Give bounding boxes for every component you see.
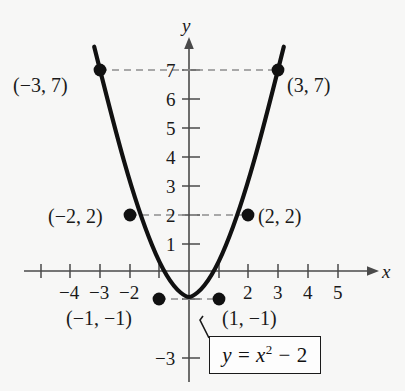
point-label-3-7: (3, 7): [287, 75, 330, 95]
point-label-neg1-neg1: (−1, −1): [66, 308, 132, 328]
point-label-2-2: (2, 2): [258, 206, 301, 226]
x-axis-label: x: [382, 262, 390, 281]
point-neg3-7: [94, 64, 107, 77]
point-1-neg1: [213, 293, 226, 306]
x-tick-label-5: 5: [333, 283, 343, 302]
x-tick-label-2: 2: [243, 283, 253, 302]
equation-exponent: 2: [266, 342, 273, 357]
y-tick-label-5: 5: [166, 119, 176, 138]
cartesian-plot-svg: [0, 0, 405, 391]
equation-equals: =: [238, 343, 250, 367]
point-neg2-2: [124, 209, 137, 222]
equation-leader-line: [200, 316, 209, 338]
point-3-7: [272, 64, 285, 77]
y-tick-label-1: 1: [166, 235, 176, 254]
x-tick-label-neg3: −3: [89, 283, 109, 302]
x-axis-arrowhead: [367, 266, 379, 276]
x-tick-label-3: 3: [273, 283, 283, 302]
leader-path: [200, 316, 209, 338]
y-tick-label-neg3: −3: [155, 349, 175, 368]
y-tick-label-2: 2: [166, 206, 176, 225]
x-tick-label-4: 4: [303, 283, 313, 302]
x-tick-label-neg2: −2: [119, 283, 139, 302]
point-label-1-neg1: (1, −1): [222, 308, 277, 328]
equation-tail: − 2: [279, 343, 308, 367]
point-label-neg3-7: (−3, 7): [13, 75, 68, 95]
y-axis-ticks: [182, 70, 200, 358]
equation-annotation-box: y = x2 − 2: [209, 336, 321, 374]
point-label-neg2-2: (−2, 2): [48, 206, 103, 226]
y-tick-label-6: 6: [166, 90, 176, 109]
x-tick-label-neg4: −4: [59, 283, 79, 302]
y-axis-arrowhead: [184, 37, 194, 49]
equation-lhs: y: [222, 343, 232, 367]
y-tick-label-4: 4: [166, 148, 176, 167]
equation-text: y = x2 − 2: [222, 342, 307, 368]
graph-figure: 7 6 5 4 3 2 1 −3 −4 −3 −2 2 3 4 5 x y (−…: [0, 0, 405, 391]
point-2-2: [242, 209, 255, 222]
equation-base: x: [256, 343, 266, 367]
y-tick-label-3: 3: [166, 177, 176, 196]
point-neg1-neg1: [153, 293, 166, 306]
y-tick-label-7: 7: [166, 61, 176, 80]
y-axis-label: y: [182, 16, 190, 35]
